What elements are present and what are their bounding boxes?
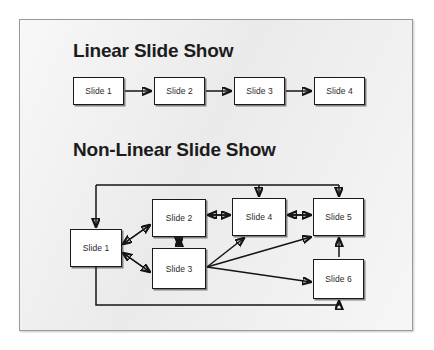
linear-node-slide-3-label: Slide 3: [246, 86, 273, 96]
linear-section-title: Linear Slide Show: [73, 40, 233, 62]
arrow-slide-1-to-slide-2: [123, 225, 150, 244]
nonlinear-node-slide-4[interactable]: Slide 4: [232, 198, 286, 236]
linear-node-slide-4[interactable]: Slide 4: [314, 77, 365, 105]
nonlinear-node-slide-5[interactable]: Slide 5: [313, 198, 364, 236]
nonlinear-node-slide-3[interactable]: Slide 3: [152, 248, 206, 289]
nonlinear-section-title: Non-Linear Slide Show: [73, 139, 276, 161]
arrow-slide-2-to-slide-1: [123, 225, 150, 244]
linear-node-slide-1-label: Slide 1: [85, 86, 112, 96]
linear-node-slide-2[interactable]: Slide 2: [154, 77, 205, 105]
nonlinear-node-slide-5-label: Slide 5: [325, 212, 352, 222]
nonlinear-node-slide-4-label: Slide 4: [246, 212, 273, 222]
nonlinear-node-slide-6-label: Slide 6: [325, 274, 352, 284]
linear-node-slide-2-label: Slide 2: [166, 86, 193, 96]
linear-node-slide-4-label: Slide 4: [326, 86, 353, 96]
slide-frame: Linear Slide Show Slide 1 Slide 2 Slide …: [19, 19, 413, 331]
nonlinear-node-slide-2[interactable]: Slide 2: [152, 199, 206, 237]
nonlinear-node-slide-1[interactable]: Slide 1: [70, 229, 122, 267]
nonlinear-node-slide-3-label: Slide 3: [166, 264, 193, 274]
nonlinear-node-slide-1-label: Slide 1: [83, 243, 110, 253]
arrow-slide-1-to-slide-3: [123, 253, 150, 272]
slide-canvas: Linear Slide Show Slide 1 Slide 2 Slide …: [0, 0, 434, 350]
loop-bottom-bus: [96, 267, 339, 305]
arrow-slide-3-to-slide-6: [207, 267, 311, 282]
nonlinear-node-slide-6[interactable]: Slide 6: [313, 259, 364, 299]
arrow-slide-3-to-slide-5: [207, 237, 311, 267]
arrow-slide-3-to-slide-4: [207, 238, 244, 267]
arrow-slide-3-to-slide-1: [123, 253, 150, 272]
nonlinear-node-slide-2-label: Slide 2: [166, 213, 193, 223]
linear-node-slide-1[interactable]: Slide 1: [73, 77, 124, 105]
linear-node-slide-3[interactable]: Slide 3: [234, 77, 285, 105]
